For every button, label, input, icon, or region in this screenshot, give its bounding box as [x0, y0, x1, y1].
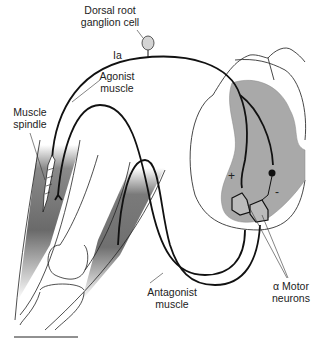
label-inhibitory: - — [275, 186, 279, 198]
label-text: ganglion cell — [78, 16, 142, 28]
inhibitory-interneuron — [269, 170, 276, 177]
label-text: spindle — [12, 118, 48, 130]
label-ia: Ia — [113, 49, 122, 61]
label-antagonist-muscle: Antagonist muscle — [143, 286, 201, 310]
label-text: Dorsal root — [78, 4, 142, 16]
label-text: neurons — [268, 292, 314, 304]
label-text: muscle — [97, 82, 137, 94]
label-text: α Motor — [268, 280, 314, 292]
label-alpha-motor-neurons: α Motor neurons — [268, 280, 314, 304]
label-text: Muscle — [12, 106, 48, 118]
label-text: muscle — [143, 298, 201, 310]
label-excitatory: + — [228, 170, 235, 182]
label-agonist-muscle: Agonist muscle — [97, 70, 137, 94]
label-muscle-spindle: Muscle spindle — [12, 106, 48, 130]
label-dorsal-root: Dorsal root ganglion cell — [78, 4, 142, 28]
label-text: Antagonist — [143, 286, 201, 298]
label-text: Agonist — [97, 70, 137, 82]
dorsal-root-ganglion — [142, 36, 154, 50]
